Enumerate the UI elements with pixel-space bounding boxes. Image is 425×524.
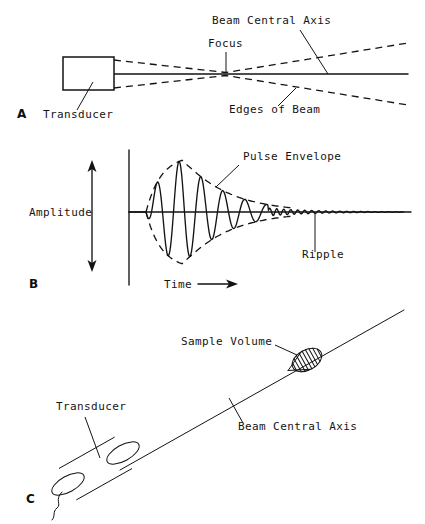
sample-volume-hatch-line <box>296 356 305 372</box>
time-arrow <box>198 280 238 289</box>
panel-c-beam-axis-line <box>120 310 404 470</box>
panel-c: Sample VolumeTransducerBeam Central Axis… <box>26 310 404 520</box>
panel-a-beam-edge-upper <box>114 43 408 73</box>
panel-c-transducer-cable <box>52 492 62 520</box>
panel-a-transducer-box <box>63 57 114 90</box>
leader-sample-volume <box>275 345 297 355</box>
label-sample-volume: Sample Volume <box>181 335 272 348</box>
label-focus: Focus <box>208 37 243 50</box>
label-beam-central-axis: Beam Central Axis <box>212 14 331 27</box>
panel-b-waveform <box>129 162 404 257</box>
panel-letter-b: B <box>29 277 38 291</box>
label-ripple: Ripple <box>302 248 344 261</box>
panel-b-leader-lines <box>216 165 315 252</box>
label-pulse-envelope: Pulse Envelope <box>243 150 341 163</box>
leader-beam-central-axis <box>300 30 328 74</box>
label-amplitude: Amplitude <box>29 206 92 219</box>
cylinder-back-cap <box>103 437 142 468</box>
cylinder-front-face <box>48 468 87 499</box>
label-beam-central-axis: Beam Central Axis <box>238 420 357 433</box>
panel-b-labels: Pulse EnvelopeAmplitudeRippleTime <box>29 150 344 291</box>
panel-b-pulse-envelope-upper <box>146 160 293 212</box>
panel-letter-c: C <box>26 492 35 506</box>
sample-volume-hatch-line <box>309 349 318 365</box>
panel-c-labels: Sample VolumeTransducerBeam Central Axis <box>56 335 357 433</box>
panel-b: Pulse EnvelopeAmplitudeRippleTime B <box>29 150 411 291</box>
ultrasound-beam-diagram: Beam Central AxisFocusTransducerEdges of… <box>0 0 425 524</box>
figure-root: Beam Central AxisFocusTransducerEdges of… <box>0 0 425 524</box>
sample-volume-hatch-line <box>299 353 308 370</box>
label-transducer: Transducer <box>56 400 126 413</box>
label-time: Time <box>164 278 192 291</box>
leader-transducer <box>85 417 100 458</box>
panel-a-beam-edge-lower <box>114 76 408 106</box>
panel-letter-a: A <box>17 107 27 121</box>
label-edges-of-beam: Edges of Beam <box>229 103 320 116</box>
label-transducer: Transducer <box>43 108 113 121</box>
leader-pulse-envelope <box>216 165 239 187</box>
panel-a: Beam Central AxisFocusTransducerEdges of… <box>17 14 408 121</box>
